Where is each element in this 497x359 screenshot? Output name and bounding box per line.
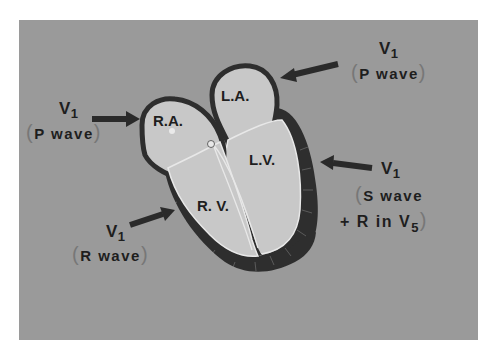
label-left-atrium: L.A.	[221, 87, 249, 104]
rv-lead-label: V1	[106, 223, 126, 243]
arrow-to-right-ventricle	[130, 207, 175, 225]
label-left-ventricle: L.V.	[249, 151, 275, 168]
lv-wave-label-line1: (S wave	[355, 184, 423, 204]
heart-diagram	[0, 0, 497, 359]
av-node	[208, 141, 215, 148]
la-wave-label: (P wave)	[351, 62, 427, 82]
lv-wave-label-line2: + R in V5)	[340, 210, 428, 234]
arrow-to-left-atrium	[280, 64, 338, 82]
la-lead-label: V1	[379, 40, 399, 60]
lv-lead-label: V1	[381, 160, 401, 180]
arrow-to-left-ventricle	[320, 155, 372, 170]
rv-wave-label: (R wave)	[72, 244, 149, 264]
label-right-atrium: R.A.	[153, 112, 183, 129]
ra-lead-label: V1	[59, 100, 79, 120]
label-right-ventricle: R. V.	[197, 197, 229, 214]
ra-wave-label: (P wave)	[26, 122, 102, 142]
